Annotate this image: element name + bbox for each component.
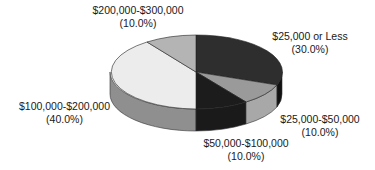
- label-25k-50k: $25,000-$50,000 (10.0%): [270, 113, 370, 139]
- label-50k-100k-name: $50,000-$100,000: [196, 137, 296, 150]
- label-25k-or-less: $25,000 or Less (30.0%): [255, 30, 365, 56]
- label-25k-50k-name: $25,000-$50,000: [270, 113, 370, 126]
- label-200k-300k-name: $200,000-$300,000: [88, 4, 188, 17]
- label-100k-200k-pct: (40.0%): [12, 113, 117, 126]
- label-50k-100k-pct: (10.0%): [196, 150, 296, 163]
- label-200k-300k: $200,000-$300,000 (10.0%): [88, 4, 188, 30]
- label-25k-or-less-name: $25,000 or Less: [255, 30, 365, 43]
- label-25k-or-less-pct: (30.0%): [255, 43, 365, 56]
- label-200k-300k-pct: (10.0%): [88, 17, 188, 30]
- label-100k-200k: $100,000-$200,000 (40.0%): [12, 100, 117, 126]
- label-100k-200k-name: $100,000-$200,000: [12, 100, 117, 113]
- label-50k-100k: $50,000-$100,000 (10.0%): [196, 137, 296, 163]
